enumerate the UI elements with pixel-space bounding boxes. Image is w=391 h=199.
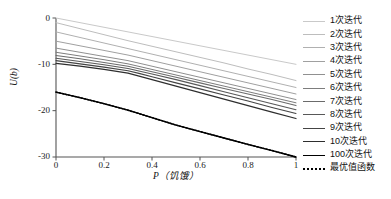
axis-spines [56,18,296,157]
series-line [56,61,296,114]
legend-label: 4次迭代 [330,56,362,65]
legend-swatch-icon [303,56,325,66]
legend-label: 最优值函数 [330,163,375,172]
legend-label: 6次迭代 [330,83,362,92]
legend-label: 1次迭代 [330,16,362,25]
legend-swatch-icon [303,42,325,52]
legend-swatch-icon [303,29,325,39]
legend-swatch-icon [303,163,325,173]
legend-item[interactable]: 9次迭代 [303,121,391,134]
legend-item[interactable]: 100次迭代 [303,148,391,161]
y-tick-label: 0 [26,13,50,23]
chart-figure: 0 -10 -20 -30 0 0.2 0.4 0.6 0.8 1 P（饥饿） … [0,0,391,199]
y-tick-label: -20 [20,105,50,115]
legend-item[interactable]: 8次迭代 [303,108,391,121]
legend-label: 7次迭代 [330,97,362,106]
legend-item[interactable]: 1次迭代 [303,14,391,27]
legend-swatch-icon [303,109,325,119]
legend-label: 3次迭代 [330,43,362,52]
legend-swatch-icon [303,16,325,26]
legend-item[interactable]: 3次迭代 [303,41,391,54]
legend-label: 10次迭代 [330,137,367,146]
x-axis-label: P（饥饿） [56,168,296,182]
legend-item[interactable]: 2次迭代 [303,27,391,40]
series-lines [56,18,296,157]
x-axis-label-text: P（饥饿） [153,171,199,181]
legend-item[interactable]: 10次迭代 [303,135,391,148]
series-line [56,48,296,99]
y-axis-label: U(b) [9,55,19,99]
legend-label: 8次迭代 [330,110,362,119]
legend-swatch-icon [303,123,325,133]
legend-item[interactable]: 6次迭代 [303,81,391,94]
legend-swatch-icon [303,136,325,146]
legend-item[interactable]: 4次迭代 [303,54,391,67]
legend-item[interactable]: 5次迭代 [303,68,391,81]
legend-swatch-icon [303,69,325,79]
legend-label: 9次迭代 [330,123,362,132]
legend-swatch-icon [303,83,325,93]
series-line [56,92,296,157]
legend-item[interactable]: 最优值函数 [303,161,391,174]
y-tick-label: -10 [20,59,50,69]
legend: 1次迭代2次迭代3次迭代4次迭代5次迭代6次迭代7次迭代8次迭代9次迭代10次迭… [303,14,391,175]
legend-label: 5次迭代 [330,70,362,79]
legend-swatch-icon [303,150,325,160]
legend-label: 2次迭代 [330,30,362,39]
legend-label: 100次迭代 [330,150,372,159]
legend-swatch-icon [303,96,325,106]
legend-item[interactable]: 7次迭代 [303,94,391,107]
y-axis-label-text: U(b) [9,68,19,86]
